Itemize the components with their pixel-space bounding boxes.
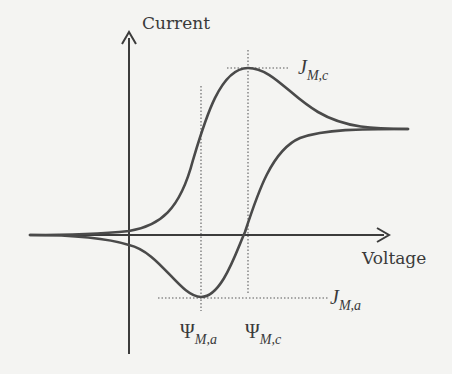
x-axis-label: Voltage xyxy=(362,248,426,268)
reverse-scan-curve xyxy=(30,129,408,297)
anodic-peak-current-label: JM,a xyxy=(330,286,361,314)
anodic-peak-potential-label: ΨM,a xyxy=(180,320,217,348)
subscript: M,c xyxy=(307,68,328,83)
subscript: M,a xyxy=(195,332,217,347)
cathodic-peak-current-label: JM,c xyxy=(298,56,328,84)
diagram-canvas: Current Voltage JM,c JM,a ΨM,a ΨM,c xyxy=(0,0,452,374)
symbol: J xyxy=(298,56,307,78)
symbol: Ψ xyxy=(245,320,260,342)
subscript: M,c xyxy=(260,332,281,347)
forward-scan-curve xyxy=(30,68,408,235)
subscript: M,a xyxy=(339,298,361,313)
voltammogram-plot xyxy=(0,0,452,374)
symbol: Ψ xyxy=(180,320,195,342)
symbol: J xyxy=(330,286,339,308)
y-axis-label: Current xyxy=(142,13,210,33)
cathodic-peak-potential-label: ΨM,c xyxy=(245,320,281,348)
